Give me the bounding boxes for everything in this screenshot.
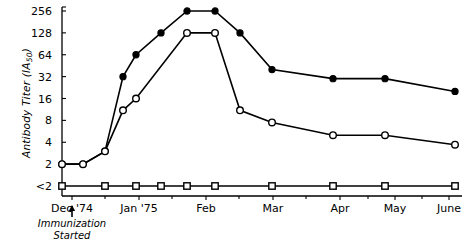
data-point-filled-circle-series-9	[269, 66, 275, 72]
data-point-open-square-series-0	[59, 183, 65, 189]
data-point-open-square-series-7	[330, 183, 336, 189]
data-point-filled-circle-series-4	[133, 52, 139, 58]
series-open-circle-series	[59, 30, 459, 168]
data-point-open-circle-series-9	[330, 132, 337, 139]
series-filled-circle-series	[59, 8, 458, 167]
data-point-open-circle-series-7	[237, 107, 244, 114]
series-open-square-series	[59, 183, 458, 189]
data-point-open-square-series-5	[212, 183, 218, 189]
series-line-open-circle-series	[62, 33, 455, 164]
data-point-open-circle-series-5	[184, 30, 191, 37]
data-point-open-circle-series-11	[452, 141, 459, 148]
data-point-open-square-series-1	[102, 183, 108, 189]
data-point-open-circle-series-10	[382, 132, 389, 139]
data-point-open-circle-series-1	[80, 161, 87, 168]
data-point-open-square-series-8	[382, 183, 388, 189]
data-point-open-square-series-4	[184, 183, 190, 189]
data-point-filled-circle-series-8	[237, 30, 243, 36]
data-point-open-square-series-9	[452, 183, 458, 189]
data-point-filled-circle-series-12	[452, 88, 458, 94]
data-point-filled-circle-series-10	[330, 76, 336, 82]
arrow-head	[69, 205, 75, 211]
immunization-arrow-icon	[69, 205, 75, 217]
chart-figure: Antibody Titer (IA50) 256128643216842<2 …	[0, 0, 469, 246]
data-point-open-circle-series-0	[59, 161, 66, 168]
data-point-open-square-series-6	[269, 183, 275, 189]
data-point-open-square-series-3	[158, 183, 164, 189]
data-point-open-circle-series-8	[269, 119, 276, 126]
data-point-open-circle-series-4	[133, 95, 140, 102]
data-point-open-circle-series-6	[212, 30, 219, 37]
data-point-filled-circle-series-6	[184, 8, 190, 14]
series-line-filled-circle-series	[62, 11, 455, 164]
data-point-filled-circle-series-7	[212, 8, 218, 14]
data-point-filled-circle-series-3	[120, 74, 126, 80]
data-point-open-circle-series-3	[120, 107, 127, 114]
data-point-open-circle-series-2	[102, 148, 109, 155]
data-point-filled-circle-series-5	[158, 30, 164, 36]
data-point-filled-circle-series-11	[382, 76, 388, 82]
data-point-open-square-series-2	[133, 183, 139, 189]
plot-area	[0, 0, 469, 246]
